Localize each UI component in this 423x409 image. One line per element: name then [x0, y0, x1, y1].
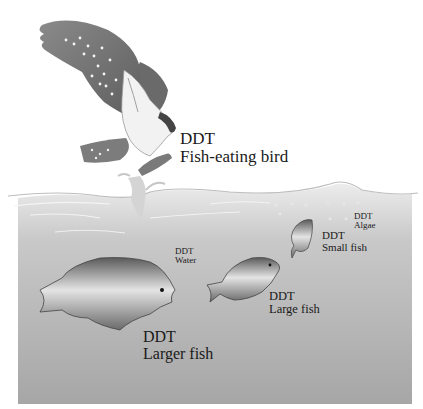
- label-bird-ddt: DDT: [180, 130, 288, 148]
- label-larger-fish: DDT Larger fish: [143, 329, 213, 363]
- label-small-fish-name: Small fish: [322, 242, 367, 254]
- label-small-fish: DDT Small fish: [322, 230, 367, 253]
- label-bird-name: Fish-eating bird: [180, 148, 288, 166]
- label-large-fish: DDT Large fish: [269, 290, 320, 316]
- label-small-fish-ddt: DDT: [322, 230, 367, 242]
- label-algae: DDT Algae: [354, 212, 376, 231]
- label-larger-fish-ddt: DDT: [143, 329, 213, 346]
- label-water-name: Water: [175, 256, 196, 265]
- label-large-fish-name: Large fish: [269, 303, 320, 316]
- label-water: DDT Water: [175, 247, 196, 266]
- osprey-bird-illustration: [39, 21, 176, 176]
- label-fish-eating-bird: DDT Fish-eating bird: [180, 130, 288, 166]
- label-larger-fish-name: Larger fish: [143, 346, 213, 363]
